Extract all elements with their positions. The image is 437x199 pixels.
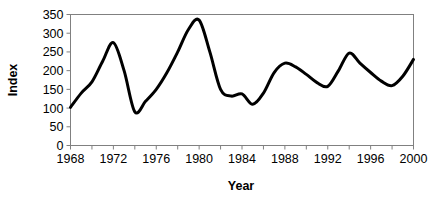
x-axis-tick-label: 1988 (271, 152, 299, 166)
y-axis-tick-label: 150 (43, 83, 64, 97)
y-axis-tick-label: 300 (43, 27, 64, 41)
x-axis-title: Year (228, 179, 255, 193)
y-axis-tick-label: 200 (43, 64, 64, 78)
x-axis-tick-labels: 196819721976198019841988199219962000 (57, 152, 428, 166)
chart-background (0, 0, 437, 199)
y-axis-tick-label: 250 (43, 45, 64, 59)
x-axis-tick-label: 1984 (228, 152, 256, 166)
x-axis-tick-label: 1976 (142, 152, 170, 166)
index-vs-year-line-chart: 050100150200250300350 196819721976198019… (0, 0, 437, 199)
y-axis-tick-label: 350 (43, 8, 64, 22)
chart-container: 050100150200250300350 196819721976198019… (0, 0, 437, 199)
y-axis-title: Index (6, 64, 20, 97)
x-axis-tick-label: 1996 (357, 152, 385, 166)
x-axis-tick-label: 1968 (57, 152, 85, 166)
x-axis-tick-label: 1980 (185, 152, 213, 166)
y-axis-tick-label: 50 (50, 120, 64, 134)
x-axis-tick-label: 2000 (400, 152, 428, 166)
x-axis-tick-label: 1972 (99, 152, 127, 166)
y-axis-tick-label: 100 (43, 102, 64, 116)
x-axis-tick-label: 1992 (314, 152, 342, 166)
